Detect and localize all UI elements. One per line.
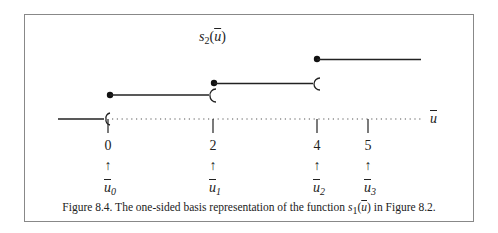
tick-label-2: 2	[203, 138, 223, 154]
knot-label-1: u1	[200, 180, 230, 197]
tick-label-4: 4	[307, 138, 327, 154]
knot-label-3: u3	[355, 180, 385, 197]
tick-label-5: 5	[358, 138, 378, 154]
function-label: s2(u)	[199, 30, 226, 48]
figure-caption: Figure 8.4. The one-sided basis represen…	[0, 200, 498, 218]
arrow-up-icon: ↑	[98, 158, 118, 174]
arrow-up-icon: ↑	[307, 158, 327, 174]
arrow-up-icon: ↑	[358, 158, 378, 174]
knot-label-0: u0	[95, 180, 125, 197]
open-end-2	[210, 89, 216, 102]
open-end-4	[314, 78, 320, 90]
arrow-up-icon: ↑	[203, 158, 223, 174]
axis-label: u	[430, 112, 437, 126]
tick-label-0: 0	[98, 138, 118, 154]
knot-label-2: u2	[304, 180, 334, 197]
step-function-plot	[0, 0, 498, 233]
